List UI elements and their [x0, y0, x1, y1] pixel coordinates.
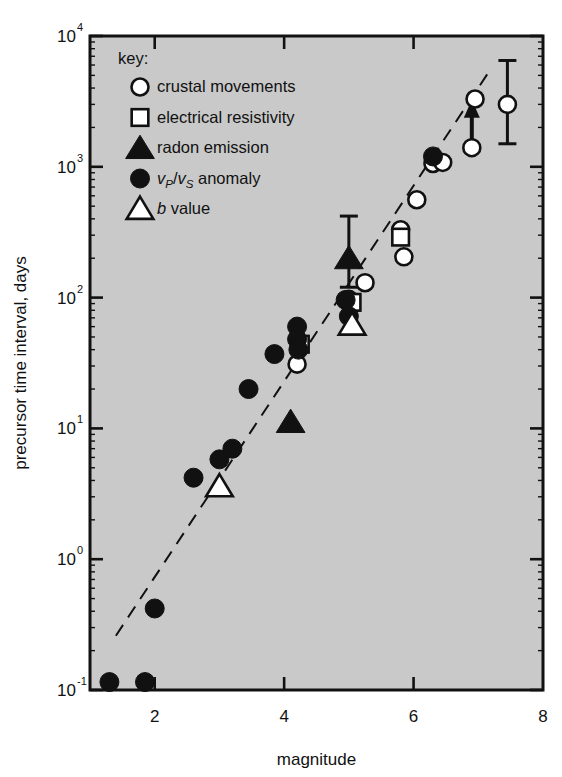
marker-filled-circle: [223, 439, 242, 458]
marker-open-square: [392, 229, 409, 246]
marker-filled-circle: [131, 169, 150, 188]
plot-area-background: [90, 36, 543, 690]
legend-title: key:: [118, 49, 148, 67]
y-tick-label: 10: [57, 681, 76, 700]
marker-filled-circle: [239, 380, 258, 399]
marker-open-square: [132, 109, 149, 126]
legend-label: b value: [157, 199, 210, 217]
y-tick-exponent: 3: [77, 152, 83, 164]
y-tick-label: 10: [57, 550, 76, 569]
marker-open-circle: [357, 274, 374, 291]
x-tick-label: 2: [150, 707, 159, 726]
marker-filled-circle: [289, 340, 308, 359]
y-tick-exponent: 4: [77, 21, 83, 33]
y-tick-label: 10: [57, 158, 76, 177]
scatter-plot: 10-11001011021031042468key:crustal movem…: [0, 0, 562, 777]
y-tick-exponent: 0: [77, 544, 83, 556]
legend-label: vP/vS anomaly: [157, 169, 261, 190]
y-tick-label: 10: [57, 289, 76, 308]
x-tick-label: 4: [279, 707, 288, 726]
marker-filled-circle: [423, 147, 442, 166]
legend-label: crustal movements: [157, 77, 295, 95]
marker-filled-circle: [184, 468, 203, 487]
y-axis-title: precursor time interval, days: [11, 256, 30, 470]
y-tick-exponent: 1: [77, 413, 83, 425]
x-tick-label: 8: [538, 707, 547, 726]
marker-filled-circle: [145, 599, 164, 618]
y-tick-exponent: -1: [77, 675, 87, 687]
marker-filled-circle: [265, 345, 284, 364]
x-tick-label: 6: [409, 707, 418, 726]
marker-open-circle: [395, 248, 412, 265]
legend-label: electrical resistivity: [157, 108, 295, 126]
marker-filled-circle: [336, 290, 355, 309]
legend-label: radon emission: [157, 138, 269, 156]
y-tick-label: 10: [57, 27, 76, 46]
marker-open-circle: [467, 90, 484, 107]
marker-open-circle: [132, 79, 149, 96]
marker-open-circle: [463, 139, 480, 156]
marker-open-circle: [408, 191, 425, 208]
figure-container: 10-11001011021031042468key:crustal movem…: [0, 0, 562, 777]
marker-open-circle: [499, 96, 516, 113]
x-axis-title: magnitude: [277, 750, 356, 769]
y-tick-label: 10: [57, 419, 76, 438]
y-tick-exponent: 2: [77, 283, 83, 295]
